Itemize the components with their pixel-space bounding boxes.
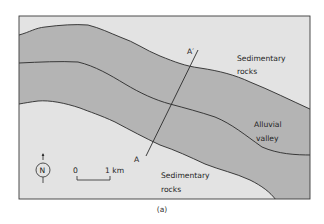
label-sedimentary-north: Sedimentary xyxy=(237,54,286,63)
label-sedimentary-south: Sedimentary xyxy=(161,171,210,180)
label-section-a-prime: A′ xyxy=(187,47,194,56)
scale-end: 1 km xyxy=(105,166,124,175)
scale-start: 0 xyxy=(73,166,78,175)
label-sedimentary-south-2: rocks xyxy=(161,185,181,194)
label-alluvial-valley: Alluvial xyxy=(254,120,282,129)
label-section-a: A xyxy=(134,155,140,164)
north-label: N xyxy=(40,166,46,175)
geologic-map: Sedimentary rocks Alluvial valley Sedime… xyxy=(0,0,324,224)
figure-caption: (a) xyxy=(0,205,324,214)
label-sedimentary-north-2: rocks xyxy=(237,67,257,76)
label-alluvial-valley-2: valley xyxy=(256,134,279,143)
